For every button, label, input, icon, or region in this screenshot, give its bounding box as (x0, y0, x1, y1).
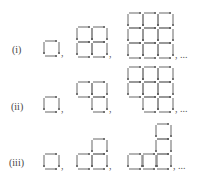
comma-separator: , (61, 47, 64, 58)
ellipsis-separator: , ... (175, 49, 188, 60)
match-head-icon (127, 165, 129, 167)
match-head-icon (88, 81, 90, 83)
pattern-figure-1 (43, 96, 60, 113)
match-head-icon (106, 93, 108, 95)
match-head-icon (106, 108, 108, 110)
match-head-icon (157, 108, 159, 110)
comma-separator: , (109, 160, 112, 171)
match-head-icon (76, 53, 78, 55)
match-head-icon (127, 24, 129, 26)
match-head-icon (55, 96, 57, 98)
match-head-icon (139, 12, 141, 14)
match-head-icon (103, 138, 105, 140)
match-head-icon (139, 57, 141, 59)
match-head-icon (142, 39, 144, 41)
match-head-icon (88, 168, 90, 170)
match-head-icon (91, 93, 93, 95)
match-head-icon (103, 111, 105, 113)
match-head-icon (154, 57, 156, 59)
match-head-icon (154, 66, 156, 68)
match-head-icon (103, 96, 105, 98)
match-head-icon (169, 81, 171, 83)
match-head-icon (88, 153, 90, 155)
match-head-icon (170, 150, 172, 152)
match-head-icon (55, 153, 57, 155)
pattern-figure-3 (127, 123, 172, 170)
match-head-icon (139, 66, 141, 68)
match-head-icon (154, 27, 156, 29)
match-head-icon (43, 108, 45, 110)
pattern-figure-1 (43, 40, 60, 57)
match-head-icon (154, 12, 156, 14)
match-head-icon (172, 39, 174, 41)
row-label: (i) (12, 44, 21, 55)
match-head-icon (154, 42, 156, 44)
match-head-icon (169, 111, 171, 113)
pattern-figure-2 (76, 26, 108, 58)
row-label: (ii) (11, 101, 23, 112)
match-head-icon (142, 78, 144, 80)
matchstick-figures (0, 0, 197, 179)
match-head-icon (88, 26, 90, 28)
match-head-icon (139, 27, 141, 29)
match-head-icon (127, 78, 129, 80)
match-head-icon (55, 55, 57, 57)
match-head-icon (103, 26, 105, 28)
match-head-icon (58, 165, 60, 167)
match-head-icon (103, 41, 105, 43)
match-head-icon (172, 54, 174, 56)
match-head-icon (157, 54, 159, 56)
match-head-icon (43, 52, 45, 54)
match-head-icon (172, 24, 174, 26)
match-head-icon (139, 168, 141, 170)
ellipsis-separator: , ... (173, 160, 186, 171)
match-head-icon (76, 38, 78, 40)
comma-separator: , (109, 48, 112, 59)
match-head-icon (127, 54, 129, 56)
match-head-icon (91, 38, 93, 40)
match-head-icon (172, 93, 174, 95)
match-head-icon (91, 53, 93, 55)
match-head-icon (142, 54, 144, 56)
match-head-icon (169, 12, 171, 14)
pattern-figure-3 (127, 12, 174, 59)
match-head-icon (169, 66, 171, 68)
pattern-figure-2 (76, 81, 108, 113)
match-head-icon (91, 108, 93, 110)
match-head-icon (169, 42, 171, 44)
match-head-icon (139, 96, 141, 98)
match-head-icon (142, 93, 144, 95)
match-head-icon (139, 81, 141, 83)
match-head-icon (106, 150, 108, 152)
match-head-icon (172, 78, 174, 80)
match-head-icon (153, 168, 155, 170)
match-head-icon (155, 165, 157, 167)
match-head-icon (169, 96, 171, 98)
match-head-icon (55, 168, 57, 170)
match-head-icon (155, 150, 157, 152)
match-head-icon (139, 42, 141, 44)
match-head-icon (167, 138, 169, 140)
comma-separator: , (61, 160, 64, 171)
match-head-icon (55, 111, 57, 113)
match-head-icon (169, 27, 171, 29)
row-label: (iii) (9, 157, 24, 168)
match-head-icon (106, 165, 108, 167)
match-head-icon (154, 81, 156, 83)
pattern-figure-3 (127, 66, 174, 113)
match-head-icon (76, 165, 78, 167)
match-head-icon (91, 165, 93, 167)
match-head-icon (103, 168, 105, 170)
ellipsis-separator: , ... (175, 103, 188, 114)
match-head-icon (167, 153, 169, 155)
match-head-icon (157, 24, 159, 26)
match-head-icon (170, 165, 172, 167)
comma-separator: , (109, 103, 112, 114)
match-head-icon (167, 123, 169, 125)
match-head-icon (154, 96, 156, 98)
match-head-icon (172, 108, 174, 110)
match-head-icon (91, 150, 93, 152)
match-head-icon (157, 93, 159, 95)
match-head-icon (43, 165, 45, 167)
match-head-icon (170, 135, 172, 137)
